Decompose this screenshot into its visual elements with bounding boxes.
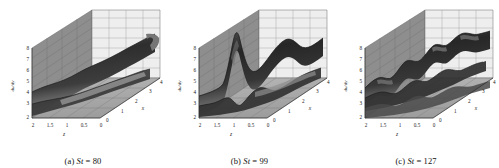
xtick-b-0: 0 [273, 117, 276, 123]
ytick-b-3: 3 [193, 100, 196, 106]
ytick-a-7: 7 [26, 56, 29, 62]
caption-c: (c) St = 127 [333, 156, 499, 166]
xtick-a-3: 3 [149, 88, 152, 94]
surface-plot-b: 8 7 6 5 4 3 2 du/dy 2 1.5 1 0.5 0 z [167, 0, 333, 145]
ztick-b-2: 2 [198, 122, 201, 128]
ztick-c-1: 1 [399, 122, 402, 128]
ytick-c-8: 8 [359, 45, 362, 51]
xtick-a-2: 2 [135, 98, 138, 104]
y-axis-label-a: du/dy [10, 80, 15, 92]
y-axis-label-c: du/dy [343, 80, 348, 92]
ytick-a-3: 3 [26, 100, 29, 106]
ztick-a-0: 0 [100, 122, 103, 128]
ztick-b-0: 0 [266, 122, 269, 128]
xtick-b-1: 1 [288, 108, 291, 114]
ytick-c-2: 2 [359, 114, 362, 120]
y-axis-label-b: du/dy [177, 80, 182, 92]
ztick-c-15: 1.5 [380, 122, 387, 128]
xtick-b-3: 3 [316, 88, 319, 94]
ytick-a-6: 6 [26, 67, 29, 73]
ztick-b-15: 1.5 [213, 122, 220, 128]
ytick-a-5: 5 [26, 78, 29, 84]
ytick-b-7: 7 [193, 56, 196, 62]
ytick-b-4: 4 [193, 89, 196, 95]
ytick-c-7: 7 [359, 56, 362, 62]
xtick-b-4: 4 [327, 79, 330, 85]
caption-a: (a) St = 80 [0, 156, 166, 166]
surface-plot-c: 8 7 6 5 4 3 2 du/dy 2 1.5 1 0.5 0 z [333, 0, 499, 145]
xtick-c-0: 0 [439, 117, 442, 123]
caption-c-suffix: = 127 [414, 156, 436, 166]
xtick-a-4: 4 [160, 79, 163, 85]
caption-a-prefix: (a) [65, 156, 77, 166]
ztick-a-2: 2 [32, 122, 35, 128]
z-axis-label-b: z [228, 131, 232, 137]
xtick-c-1: 1 [454, 108, 457, 114]
ztick-b-05: 0.5 [247, 122, 254, 128]
z-axis-label-a: z [62, 131, 66, 137]
panel-c: 8 7 6 5 4 3 2 du/dy 2 1.5 1 0.5 0 z [333, 0, 499, 168]
caption-b: (b) St = 99 [167, 156, 333, 166]
ytick-b-5: 5 [193, 78, 196, 84]
xtick-a-1: 1 [121, 108, 124, 114]
ytick-c-3: 3 [359, 100, 362, 106]
ytick-a-8: 8 [26, 45, 29, 51]
xtick-b-2: 2 [302, 98, 305, 104]
ytick-a-2: 2 [26, 114, 29, 120]
ztick-a-15: 1.5 [47, 122, 54, 128]
panel-a: 8 7 6 5 4 3 2 du/dy 2 1.5 1 0.5 0 z [0, 0, 166, 168]
z-axis-label-c: z [395, 131, 399, 137]
surface-plot-a: 8 7 6 5 4 3 2 du/dy 2 1.5 1 0.5 0 z [0, 0, 166, 145]
caption-a-suffix: = 80 [83, 156, 101, 166]
ztick-c-0: 0 [433, 122, 436, 128]
ztick-c-05: 0.5 [414, 122, 421, 128]
panel-b: 8 7 6 5 4 3 2 du/dy 2 1.5 1 0.5 0 z [167, 0, 333, 168]
ztick-c-2: 2 [365, 122, 368, 128]
three-panel-surface-figure: 8 7 6 5 4 3 2 du/dy 2 1.5 1 0.5 0 z [0, 0, 499, 168]
caption-b-prefix: (b) [231, 156, 243, 166]
caption-c-prefix: (c) [395, 156, 407, 166]
x-axis-label-a: x [141, 105, 145, 111]
ytick-b-6: 6 [193, 67, 196, 73]
ztick-a-05: 0.5 [81, 122, 88, 128]
ytick-b-2: 2 [193, 114, 196, 120]
ytick-c-4: 4 [359, 89, 362, 95]
x-axis-label-b: x [307, 105, 311, 111]
xtick-c-3: 3 [482, 88, 485, 94]
x-axis-label-c: x [474, 105, 478, 111]
ytick-c-6: 6 [359, 67, 362, 73]
ztick-b-1: 1 [232, 122, 235, 128]
caption-b-suffix: = 99 [250, 156, 268, 166]
xtick-c-2: 2 [468, 98, 471, 104]
ytick-c-5: 5 [359, 78, 362, 84]
ytick-b-8: 8 [193, 45, 196, 51]
xtick-c-4: 4 [493, 79, 496, 85]
xtick-a-0: 0 [106, 117, 109, 123]
ytick-a-4: 4 [26, 89, 29, 95]
ztick-a-1: 1 [66, 122, 69, 128]
